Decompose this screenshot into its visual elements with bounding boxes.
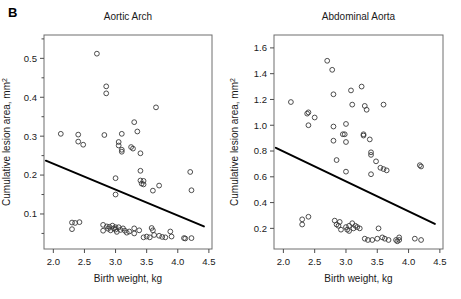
data-point	[364, 107, 369, 112]
y-tick-label: 0.8	[254, 145, 267, 156]
y-tick-label: 0.2	[24, 169, 37, 180]
data-point	[168, 229, 173, 234]
data-point	[344, 140, 349, 145]
data-point	[70, 227, 75, 232]
y-axis-title: Cumulative lesion area, mm2	[229, 78, 241, 206]
data-point	[331, 92, 336, 97]
data-point	[312, 115, 317, 120]
plot-frame	[44, 35, 212, 249]
data-point	[362, 236, 367, 241]
data-point	[334, 158, 339, 163]
data-point	[138, 168, 143, 173]
x-tick-label: 2.0	[277, 256, 290, 267]
y-tick-label: 0.3	[24, 131, 37, 142]
x-axis-title: Birth weight, kg	[324, 273, 392, 284]
data-point	[330, 67, 335, 72]
x-tick-label: 4.5	[202, 256, 215, 267]
y-tick-label: 1.0	[254, 120, 267, 131]
data-point	[417, 163, 422, 168]
regression-line	[276, 148, 435, 224]
data-point	[359, 84, 364, 89]
data-point	[300, 217, 305, 222]
data-point	[81, 142, 86, 147]
data-point	[189, 188, 194, 193]
scatter-plots-svg: Aortic Arch0.10.20.30.40.52.02.53.03.54.…	[0, 0, 461, 299]
data-point	[412, 236, 417, 241]
data-point	[104, 91, 109, 96]
data-point	[157, 183, 162, 188]
y-tick-label: 0.6	[254, 171, 267, 182]
data-point	[325, 58, 330, 63]
data-point	[76, 139, 81, 144]
panel-title: Aortic Arch	[104, 11, 152, 22]
y-tick-label: 1.2	[254, 94, 267, 105]
data-point	[305, 111, 310, 116]
data-point	[306, 214, 311, 219]
x-tick-label: 2.0	[47, 256, 60, 267]
data-point	[132, 120, 137, 125]
x-tick-label: 4.0	[402, 256, 415, 267]
chart-panel-abdominal-aorta: Abdominal Aorta0.20.40.60.81.01.21.41.62…	[229, 11, 447, 284]
data-point	[150, 188, 155, 193]
data-point	[344, 169, 349, 174]
data-point	[374, 159, 379, 164]
data-point	[116, 143, 121, 148]
data-point	[76, 132, 81, 137]
data-point	[154, 105, 159, 110]
data-point	[419, 238, 424, 243]
chart-panel-aortic-arch: Aortic Arch0.10.20.30.40.52.02.53.03.54.…	[1, 11, 216, 284]
x-tick-label: 3.0	[339, 256, 352, 267]
x-tick-label: 3.0	[109, 256, 122, 267]
y-tick-label: 0.5	[24, 53, 37, 64]
data-point	[138, 151, 143, 156]
data-point	[300, 222, 305, 227]
y-tick-label: 0.4	[24, 92, 37, 103]
x-tick-label: 3.5	[140, 256, 153, 267]
data-point	[113, 192, 118, 197]
y-tick-label: 0.1	[24, 208, 37, 219]
data-point	[331, 138, 336, 143]
data-point	[339, 227, 344, 232]
data-point	[419, 164, 424, 169]
data-point	[132, 226, 137, 231]
data-point	[384, 168, 389, 173]
data-point	[369, 172, 374, 177]
data-point	[152, 233, 157, 238]
x-tick-label: 4.5	[433, 256, 446, 267]
y-tick-label: 0.4	[254, 197, 267, 208]
x-tick-label: 2.5	[308, 256, 321, 267]
x-tick-label: 2.5	[78, 256, 91, 267]
data-point	[350, 221, 355, 226]
data-point	[306, 123, 311, 128]
y-tick-label: 1.4	[254, 68, 267, 79]
data-point	[188, 170, 193, 175]
data-points	[289, 58, 424, 243]
y-tick-label: 1.6	[254, 42, 267, 53]
panel-letter-label: B	[8, 5, 17, 20]
data-point	[344, 122, 349, 127]
data-point	[367, 137, 372, 142]
plot-frame	[274, 35, 443, 249]
data-points	[58, 51, 193, 241]
data-point	[381, 167, 386, 172]
data-point	[135, 129, 140, 134]
y-tick-label: 0.2	[254, 223, 267, 234]
data-point	[94, 51, 99, 56]
x-tick-label: 3.5	[371, 256, 384, 267]
data-point	[58, 131, 63, 136]
data-point	[132, 231, 137, 236]
data-point	[378, 165, 383, 170]
data-point	[350, 102, 355, 107]
data-point	[113, 176, 118, 181]
x-tick-label: 4.0	[171, 256, 184, 267]
data-point	[137, 228, 142, 233]
data-point	[119, 131, 124, 136]
data-point	[157, 233, 162, 238]
data-point	[375, 236, 380, 241]
data-point	[306, 110, 311, 115]
data-point	[169, 234, 174, 239]
data-point	[189, 236, 194, 241]
data-point	[104, 84, 109, 89]
regression-line	[46, 161, 204, 227]
panel-title: Abdominal Aorta	[322, 11, 396, 22]
